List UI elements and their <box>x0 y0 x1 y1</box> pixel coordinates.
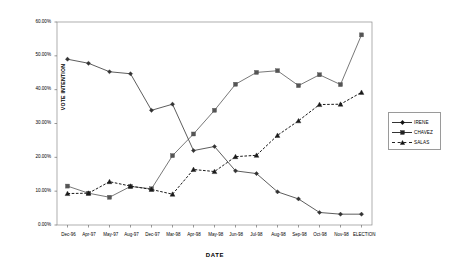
x-tick-label: Dec-96 <box>61 233 76 238</box>
x-tick-label: Aug-98 <box>271 233 286 238</box>
legend-item-chavez: CHAVEZ <box>392 127 437 137</box>
square-marker-icon <box>400 130 405 135</box>
legend-label-irene: IRENE <box>414 120 429 125</box>
x-tick-label: Dec-97 <box>145 233 160 238</box>
diamond-marker-icon <box>400 120 405 125</box>
x-tick-label: Mar-98 <box>166 233 180 238</box>
legend-label-chavez: CHAVEZ <box>414 130 433 135</box>
x-tick-label: Oct-98 <box>313 233 327 238</box>
chart-legend: IRENE CHAVEZ SALAS <box>388 112 441 150</box>
x-tick-label: Apr-98 <box>187 233 201 238</box>
y-tick-label: 50.00% <box>17 53 51 58</box>
legend-key-salas <box>392 138 412 146</box>
y-tick-label: 60.00% <box>17 20 51 25</box>
y-tick-label: 0.00% <box>17 223 51 228</box>
x-tick-label: Aug-97 <box>124 233 139 238</box>
x-tick-label: ELECTION <box>353 233 376 238</box>
y-tick-label: 30.00% <box>17 121 51 126</box>
legend-label-salas: SALAS <box>414 140 429 145</box>
legend-item-salas: SALAS <box>392 137 437 147</box>
legend-item-irene: IRENE <box>392 117 437 127</box>
triangle-marker-icon <box>400 140 405 145</box>
legend-key-irene <box>392 118 412 126</box>
x-tick-label: Jun-98 <box>229 233 243 238</box>
y-tick-label: 10.00% <box>17 189 51 194</box>
x-tick-label: May-98 <box>208 233 223 238</box>
y-axis-title: VOTE INTENTION <box>60 32 66 142</box>
x-tick-label: Sep-98 <box>292 233 307 238</box>
y-tick-label: 40.00% <box>17 87 51 92</box>
vote-intention-line-chart: VOTE INTENTION DATE 0.00%10.00%20.00%30.… <box>0 0 449 267</box>
x-axis-title: DATE <box>55 252 375 258</box>
plot-area <box>0 0 449 267</box>
x-tick-label: May-97 <box>103 233 118 238</box>
x-tick-label: Jul-98 <box>250 233 262 238</box>
y-tick-label: 20.00% <box>17 155 51 160</box>
x-tick-label: Apr-97 <box>82 233 96 238</box>
legend-key-chavez <box>392 128 412 136</box>
x-tick-label: Nov-98 <box>334 233 349 238</box>
